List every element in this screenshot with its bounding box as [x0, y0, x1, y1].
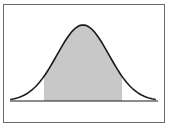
normal-curve-plot [0, 0, 169, 128]
shaded-area [44, 25, 122, 101]
